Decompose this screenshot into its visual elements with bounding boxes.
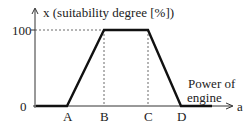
- y-axis-label: x (suitability degree [%]): [43, 6, 174, 19]
- membership-diagram: x (suitability degree [%]) 100 0 A B C D…: [0, 0, 248, 126]
- x-axis-label: a: [237, 100, 243, 113]
- point-label-d: D: [177, 110, 186, 123]
- x-annotation-line1: Power of: [188, 77, 235, 90]
- tick-label-100: 100: [12, 24, 32, 37]
- tick-label-0: 0: [20, 100, 27, 113]
- x-annotation-line2: engine: [187, 91, 222, 104]
- point-label-a: A: [63, 110, 72, 123]
- membership-curve: [36, 30, 212, 106]
- point-label-b: B: [100, 110, 109, 123]
- point-label-c: C: [144, 110, 153, 123]
